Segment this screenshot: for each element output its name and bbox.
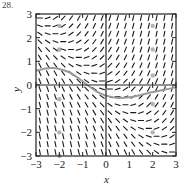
- slope-segment: [76, 49, 81, 51]
- slope-segment: [109, 142, 111, 147]
- slope-segment: [131, 127, 135, 130]
- slope-segment: [61, 33, 66, 35]
- slope-segment: [147, 111, 151, 114]
- slope-segment: [85, 87, 89, 91]
- slope-segment: [62, 87, 64, 92]
- slope-segment: [132, 31, 133, 36]
- slope-segment: [39, 134, 40, 139]
- slope-segment: [164, 23, 165, 28]
- slope-segment: [163, 79, 165, 84]
- slope-segment: [77, 95, 80, 99]
- slope-segment: [93, 40, 96, 44]
- slope-segment: [70, 134, 71, 139]
- slope-segment: [156, 47, 157, 52]
- slope-segment: [85, 24, 88, 28]
- slope-segment: [140, 63, 142, 68]
- slope-segment: [55, 118, 56, 123]
- slope-segment: [101, 111, 104, 115]
- slope-segment: [140, 79, 143, 83]
- slope-segment: [62, 71, 65, 75]
- slope-segment: [148, 63, 150, 68]
- slope-segment: [55, 102, 57, 107]
- slope-segment: [117, 23, 119, 28]
- slope-segment: [70, 150, 71, 155]
- slope-segment: [148, 47, 149, 52]
- figure-number-label: 28.: [2, 0, 13, 10]
- slope-segment: [77, 87, 80, 91]
- slope-segment: [100, 64, 104, 67]
- slope-segment: [109, 39, 111, 44]
- slope-segment: [109, 15, 111, 20]
- slope-segment: [124, 127, 128, 131]
- slope-segment: [132, 55, 134, 60]
- slope-segment: [108, 118, 111, 122]
- slope-segment: [61, 16, 65, 20]
- slope-segment: [148, 39, 149, 44]
- slope-segment: [109, 31, 111, 36]
- slope-segment: [86, 134, 88, 139]
- slope-segment: [62, 110, 64, 115]
- point-marker: [57, 130, 61, 134]
- slope-segment: [78, 102, 80, 107]
- slope-segment: [132, 39, 134, 44]
- slope-segment: [139, 142, 143, 146]
- slope-segment: [38, 32, 42, 35]
- point-marker: [150, 102, 154, 106]
- slope-segment: [86, 150, 87, 155]
- slope-segment: [101, 23, 103, 28]
- slope-segment: [172, 31, 173, 36]
- slope-segment: [115, 104, 120, 106]
- slope-segment: [109, 150, 111, 155]
- slope-segment: [70, 118, 72, 123]
- slope-segment: [54, 87, 56, 92]
- slope-segment: [93, 24, 95, 29]
- slope-segment: [117, 31, 119, 36]
- slope-segment: [47, 126, 48, 131]
- slope-segment: [163, 111, 166, 115]
- slope-segment: [156, 63, 158, 68]
- point-marker: [57, 24, 61, 28]
- slope-segment: [133, 15, 134, 20]
- slope-segment: [37, 25, 42, 27]
- slope-segment: [78, 134, 79, 139]
- slope-segment: [140, 71, 142, 76]
- slope-segment: [123, 119, 127, 122]
- slope-segment: [148, 15, 149, 20]
- slope-segment: [124, 134, 127, 138]
- slope-segment: [132, 142, 135, 146]
- slope-segment: [55, 134, 56, 139]
- slope-segment: [69, 16, 72, 20]
- slope-segment: [156, 39, 157, 44]
- slope-segment: [108, 72, 112, 75]
- slope-segment: [85, 32, 88, 36]
- slope-segment: [171, 110, 174, 114]
- slope-segment: [39, 86, 41, 91]
- slope-segment: [140, 47, 142, 52]
- slope-segment: [93, 48, 97, 52]
- y-tick-label: 3: [27, 8, 33, 20]
- slope-segment: [125, 39, 127, 44]
- slope-segment: [154, 143, 159, 145]
- slope-segment: [47, 94, 49, 99]
- slope-segment: [39, 149, 40, 154]
- slope-segment: [47, 87, 49, 92]
- slope-segment: [163, 102, 166, 106]
- axes: [36, 14, 176, 156]
- slope-segment: [131, 120, 136, 122]
- slope-segment: [92, 80, 97, 82]
- slope-segment: [70, 110, 72, 115]
- slope-segment: [101, 31, 103, 36]
- slope-segment: [54, 71, 57, 75]
- slope-segment: [155, 103, 158, 107]
- slope-segment: [77, 24, 80, 28]
- slope-segment: [47, 110, 48, 115]
- slope-segment: [155, 95, 158, 99]
- slope-segment: [116, 63, 119, 67]
- slope-segment: [148, 23, 149, 28]
- slope-segment: [140, 31, 141, 36]
- slope-segment: [116, 134, 119, 138]
- slope-segment: [77, 32, 81, 36]
- slope-segment: [164, 55, 165, 60]
- x-tick-label: 0: [103, 158, 109, 170]
- slope-segment: [39, 126, 40, 131]
